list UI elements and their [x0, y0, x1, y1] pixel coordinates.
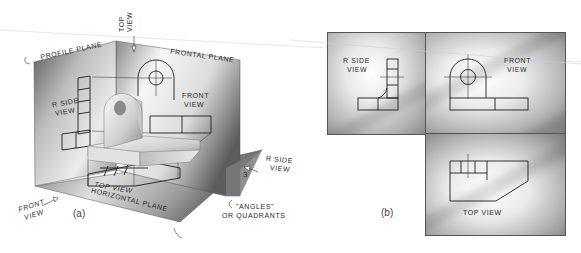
- b-front-label-line1: FRONT: [504, 57, 531, 65]
- b-front-label-line2: VIEW: [507, 66, 527, 74]
- b-top-view-label: TOP VIEW: [463, 209, 502, 217]
- b-r-side-label-line2: VIEW: [347, 66, 367, 74]
- figure-b-caption: (b): [381, 207, 393, 218]
- orthographic-projection-figure: PROFILE PLANE FRONTAL PLANE HORIZONTAL P…: [0, 0, 581, 253]
- top-view-drawing: [450, 154, 528, 201]
- b-r-side-label-line1: R SIDE: [343, 57, 370, 65]
